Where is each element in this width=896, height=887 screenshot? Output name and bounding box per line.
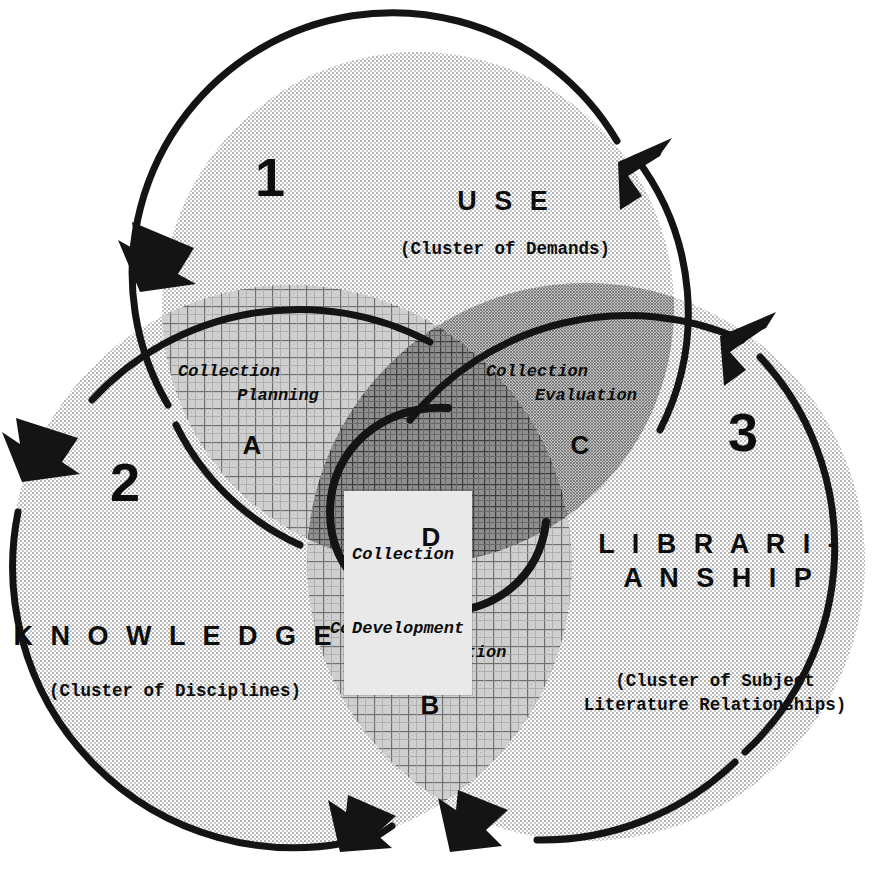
venn-diagram-canvas: 1 U S E (Cluster of Demands) 2 K N O W L… <box>0 0 896 887</box>
venn-svg <box>0 0 896 887</box>
